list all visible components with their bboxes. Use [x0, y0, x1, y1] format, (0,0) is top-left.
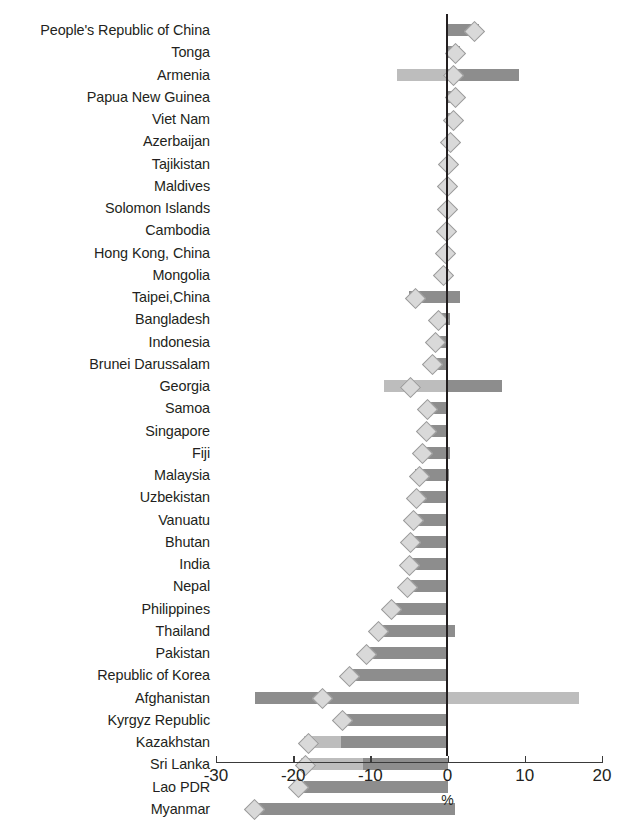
- bar-segment-positive: [448, 380, 502, 392]
- category-label: India: [0, 553, 210, 575]
- bar-group: [216, 308, 612, 330]
- chart-row: Afghanistan: [0, 687, 627, 709]
- category-label: Republic of Korea: [0, 664, 210, 686]
- category-label: Afghanistan: [0, 687, 210, 709]
- chart-row: Pakistan: [0, 642, 627, 664]
- category-label: Nepal: [0, 575, 210, 597]
- bar-group: [216, 442, 612, 464]
- category-label: Azerbaijan: [0, 130, 210, 152]
- category-label: Singapore: [0, 420, 210, 442]
- bar-group: [216, 197, 612, 219]
- chart-row: Azerbaijan: [0, 130, 627, 152]
- category-label: Philippines: [0, 598, 210, 620]
- bar-group: [216, 397, 612, 419]
- chart-row: Hong Kong, China: [0, 242, 627, 264]
- bar-segment-positive: [448, 692, 579, 704]
- category-label: Kyrgyz Republic: [0, 709, 210, 731]
- category-label: Solomon Islands: [0, 197, 210, 219]
- category-label: People's Republic of China: [0, 19, 210, 41]
- value-marker: [433, 265, 454, 286]
- bar-group: [216, 642, 612, 664]
- category-label: Uzbekistan: [0, 486, 210, 508]
- bar-group: [216, 464, 612, 486]
- bar-group: [216, 353, 612, 375]
- x-axis-title: %: [0, 792, 627, 808]
- category-label: Bhutan: [0, 531, 210, 553]
- chart-row: Solomon Islands: [0, 197, 627, 219]
- bar-group: [216, 86, 612, 108]
- category-label: Indonesia: [0, 331, 210, 353]
- chart-row: Singapore: [0, 420, 627, 442]
- chart-row: Viet Nam: [0, 108, 627, 130]
- bar-segment-negative: [397, 69, 448, 81]
- chart-row: Bangladesh: [0, 308, 627, 330]
- chart-row: Tonga: [0, 41, 627, 63]
- chart-row: Papua New Guinea: [0, 86, 627, 108]
- bar-group: [216, 531, 612, 553]
- chart-row: Uzbekistan: [0, 486, 627, 508]
- value-marker: [437, 176, 458, 197]
- category-label: Vanuatu: [0, 509, 210, 531]
- category-label: Pakistan: [0, 642, 210, 664]
- zero-axis-line: [446, 14, 448, 756]
- chart-row: Armenia: [0, 64, 627, 86]
- bar-group: [216, 219, 612, 241]
- x-tick-label: 0: [418, 766, 478, 786]
- category-label: Thailand: [0, 620, 210, 642]
- bar-group: [216, 242, 612, 264]
- category-label: Sri Lanka: [0, 753, 210, 775]
- bar-group: [216, 264, 612, 286]
- bar-group: [216, 375, 612, 397]
- value-marker: [440, 132, 461, 153]
- bar-segment-positive: [448, 469, 450, 481]
- category-label: Papua New Guinea: [0, 86, 210, 108]
- bar-group: [216, 420, 612, 442]
- category-label: Viet Nam: [0, 108, 210, 130]
- bar-segment-dark-negative: [341, 736, 448, 748]
- category-label: Tajikistan: [0, 153, 210, 175]
- x-tick-label: -10: [340, 766, 400, 786]
- chart-row: Kyrgyz Republic: [0, 709, 627, 731]
- x-tick: [602, 756, 603, 763]
- category-label: Bangladesh: [0, 308, 210, 330]
- bar-segment-positive: [448, 291, 460, 303]
- chart-row: Cambodia: [0, 219, 627, 241]
- category-label: Taipei,China: [0, 286, 210, 308]
- bar-group: [216, 41, 612, 63]
- x-axis-line: [216, 762, 602, 763]
- category-label: Mongolia: [0, 264, 210, 286]
- x-tick: [293, 756, 294, 763]
- bar-chart: People's Republic of ChinaTongaArmeniaPa…: [0, 0, 627, 835]
- bar-group: [216, 687, 612, 709]
- bar-group: [216, 664, 612, 686]
- bar-segment-negative: [338, 714, 448, 726]
- bar-group: [216, 731, 612, 753]
- x-tick: [216, 756, 217, 763]
- chart-row: Taipei,China: [0, 286, 627, 308]
- x-tick: [525, 756, 526, 763]
- bar-group: [216, 108, 612, 130]
- x-tick-label: 20: [572, 766, 627, 786]
- chart-row: Indonesia: [0, 331, 627, 353]
- x-tick-label: 10: [495, 766, 555, 786]
- category-label: Kazakhstan: [0, 731, 210, 753]
- category-label: Cambodia: [0, 219, 210, 241]
- chart-row: Tajikistan: [0, 153, 627, 175]
- chart-row: Kazakhstan: [0, 731, 627, 753]
- bar-segment-positive: [448, 447, 450, 459]
- x-axis-title-text: %: [441, 792, 453, 808]
- category-label: Maldives: [0, 175, 210, 197]
- bar-segment-negative: [346, 669, 448, 681]
- x-tick: [370, 756, 371, 763]
- chart-row: Samoa: [0, 397, 627, 419]
- bar-group: [216, 553, 612, 575]
- chart-row: Philippines: [0, 598, 627, 620]
- category-label: Georgia: [0, 375, 210, 397]
- bar-group: [216, 486, 612, 508]
- bar-group: [216, 620, 612, 642]
- chart-row: Nepal: [0, 575, 627, 597]
- bar-group: [216, 575, 612, 597]
- bar-group: [216, 130, 612, 152]
- x-tick-label: -30: [186, 766, 246, 786]
- category-label: Samoa: [0, 397, 210, 419]
